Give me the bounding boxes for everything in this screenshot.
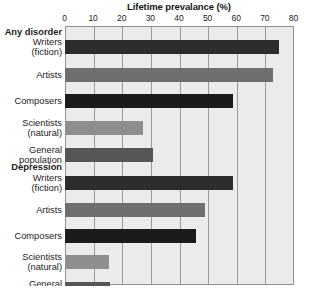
bar [65, 94, 234, 108]
bar [65, 121, 144, 135]
chart-rows: Any disorderWriters (fiction)ArtistsComp… [0, 26, 310, 285]
category-label: Writers (fiction) [0, 37, 62, 58]
bar-chart-figure: Lifetime prevalance (%) 0102030405060708… [0, 0, 310, 302]
x-tick-label: 0 [62, 13, 67, 23]
bar [65, 255, 109, 269]
bar [65, 203, 205, 217]
category-label: Composers [0, 231, 62, 242]
category-label: Writers (fiction) [0, 173, 62, 194]
bar [65, 148, 154, 162]
category-label: Artists [0, 205, 62, 216]
category-label: Scientists (natural) [0, 252, 62, 273]
x-tick-label: 30 [146, 13, 155, 23]
bar [65, 40, 280, 54]
group-label: Depression [0, 162, 62, 173]
x-tick-label: 80 [289, 13, 298, 23]
x-tick-label: 60 [232, 13, 241, 23]
x-axis-tick-labels: 01020304050607080 [0, 13, 310, 25]
chart-title: Lifetime prevalance (%) [64, 1, 294, 12]
x-tick-label: 70 [260, 13, 269, 23]
bar [65, 68, 274, 82]
x-tick-label: 50 [203, 13, 212, 23]
x-tick-label: 10 [88, 13, 97, 23]
category-label: Composers [0, 96, 62, 107]
bar [65, 229, 197, 243]
category-label: Artists [0, 70, 62, 81]
bar [65, 176, 234, 190]
x-tick-label: 20 [117, 13, 126, 23]
x-tick-label: 40 [174, 13, 183, 23]
category-label: Scientists (natural) [0, 118, 62, 139]
bottom-margin [0, 286, 310, 302]
